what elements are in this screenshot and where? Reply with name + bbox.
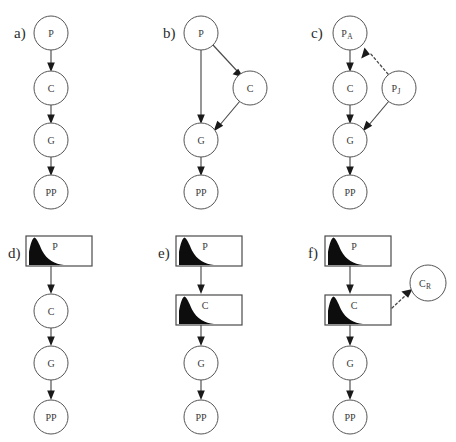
node-label-e-pp: PP xyxy=(195,412,207,423)
node-label-f-c: C xyxy=(351,300,358,311)
figure-canvas: a) P C G PP b) xyxy=(0,0,456,442)
panel-b: b) P C G PP xyxy=(163,16,267,209)
panel-label-e: e) xyxy=(158,245,170,262)
node-label-a-p: P xyxy=(48,28,54,39)
node-label-b-pp: PP xyxy=(195,187,207,198)
arrowhead-f-p-c xyxy=(346,285,354,295)
panel-label-c: c) xyxy=(311,25,323,42)
node-label-d-c: C xyxy=(48,306,55,317)
node-label-a-g: G xyxy=(47,135,54,146)
arrowhead-d-p-c xyxy=(47,285,55,295)
node-label-d-p: P xyxy=(52,241,58,252)
panel-label-f: f) xyxy=(308,245,318,262)
node-label-d-g: G xyxy=(47,358,54,369)
panel-label-b: b) xyxy=(163,25,176,42)
node-label-b-p: P xyxy=(198,28,204,39)
panel-d: d) P C G PP xyxy=(8,236,92,434)
panel-e: e) P C G PP xyxy=(158,236,242,434)
arrowhead-e-c-g xyxy=(197,337,205,347)
edge-c-pj-g xyxy=(368,101,389,126)
panel-f: f) P C CR G PP xyxy=(308,236,446,434)
arrowhead-f-g-pp xyxy=(346,391,354,401)
arrowhead-e-p-c xyxy=(197,285,205,295)
panel-c: c) PA C PJ G PP xyxy=(311,16,416,209)
node-label-a-pp: PP xyxy=(45,187,57,198)
node-label-f-p: P xyxy=(351,241,357,252)
edge-b-p-c xyxy=(213,45,238,72)
panel-a: a) P C G PP xyxy=(14,16,68,209)
edge-c-pj-pa xyxy=(370,53,388,74)
node-label-e-g: G xyxy=(197,358,204,369)
edge-b-c-g xyxy=(219,101,240,126)
arrowhead-c-pj-pa xyxy=(361,48,370,59)
node-label-f-pp: PP xyxy=(344,412,356,423)
panel-label-d: d) xyxy=(8,245,21,262)
node-label-f-g: G xyxy=(346,358,353,369)
arrowhead-d-c-g xyxy=(47,337,55,347)
node-label-c-c: C xyxy=(347,83,354,94)
arrowhead-e-g-pp xyxy=(197,391,205,401)
node-label-a-c: C xyxy=(48,83,55,94)
arrowhead-d-g-pp xyxy=(47,391,55,401)
edge-f-c-cr xyxy=(392,294,407,308)
node-label-b-c: C xyxy=(247,83,254,94)
node-label-c-g: G xyxy=(346,135,353,146)
arrowhead-f-c-g xyxy=(346,337,354,347)
arrowhead-f-c-cr xyxy=(401,289,412,298)
node-label-e-c: C xyxy=(202,300,209,311)
node-label-d-pp: PP xyxy=(45,412,57,423)
panel-label-a: a) xyxy=(14,25,26,42)
node-label-b-g: G xyxy=(197,135,204,146)
node-label-c-pp: PP xyxy=(344,187,356,198)
node-label-e-p: P xyxy=(202,241,208,252)
